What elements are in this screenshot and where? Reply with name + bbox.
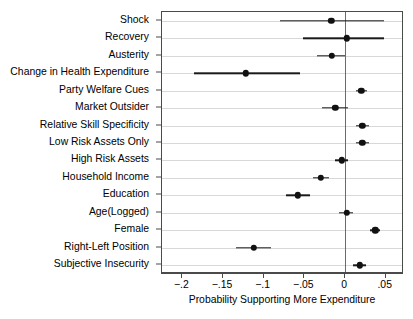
y-axis-tick-label: Relative Skill Specificity: [40, 119, 149, 129]
estimate-point: [359, 140, 365, 146]
estimate-point: [343, 35, 349, 41]
x-axis-tick: [263, 273, 264, 278]
estimate-point: [358, 87, 364, 93]
estimate-row: [162, 135, 402, 151]
y-axis-tick-label: Age(Logged): [89, 207, 149, 217]
y-axis-tick-label: Party Welfare Cues: [59, 84, 149, 94]
x-axis-tick: [181, 273, 182, 278]
x-axis-tick-label: −.15: [212, 279, 233, 291]
y-axis-tick-label: Household Income: [62, 172, 149, 182]
estimate-point: [243, 70, 249, 76]
estimate-row: [162, 152, 402, 168]
estimate-point: [359, 122, 365, 128]
y-axis-labels: ShockRecoveryAusterityChange in Health E…: [0, 11, 155, 273]
plot-area: [161, 11, 403, 273]
estimate-row: [162, 30, 402, 46]
y-axis-tick-label: Low Risk Assets Only: [49, 137, 149, 147]
x-axis-tick-label: −.1: [255, 279, 270, 291]
estimate-row: [162, 65, 402, 81]
estimate-point: [251, 245, 257, 251]
estimate-point: [295, 192, 301, 198]
estimate-row: [162, 118, 402, 134]
y-axis-tick-label: Shock: [120, 15, 149, 25]
y-axis-tick-label: Market Outsider: [75, 102, 149, 112]
estimate-point: [329, 52, 335, 58]
estimate-row: [162, 48, 402, 64]
estimate-row: [162, 205, 402, 221]
x-axis-tick-label: .05: [377, 279, 391, 291]
x-axis-tick: [385, 273, 386, 278]
estimate-point: [372, 227, 378, 233]
estimate-row: [162, 83, 402, 99]
estimate-point: [317, 175, 323, 181]
x-axis-tick: [344, 273, 345, 278]
estimate-row: [162, 13, 402, 29]
estimate-point: [339, 157, 345, 163]
estimate-row: [162, 187, 402, 203]
estimate-row: [162, 100, 402, 116]
estimate-point: [328, 18, 334, 24]
x-axis-tick-label: 0: [341, 279, 347, 291]
x-axis-tick: [303, 273, 304, 278]
estimate-row: [162, 257, 402, 273]
y-axis-tick-label: High Risk Assets: [71, 154, 149, 164]
x-axis-tick: [222, 273, 223, 278]
estimate-point: [356, 262, 362, 268]
x-axis-tick-label: −.2: [174, 279, 189, 291]
coefficient-plot: ShockRecoveryAusterityChange in Health E…: [0, 0, 413, 319]
estimate-point: [343, 210, 349, 216]
estimate-row: [162, 222, 402, 238]
estimate-point: [332, 105, 338, 111]
estimate-row: [162, 240, 402, 256]
y-axis-tick-label: Right-Left Position: [64, 242, 149, 252]
x-axis-title: Probability Supporting More Expenditure: [161, 294, 403, 305]
y-axis-tick-label: Female: [114, 224, 149, 234]
y-axis-tick-label: Change in Health Expenditure: [10, 67, 149, 77]
y-axis-tick-label: Subjective Insecurity: [54, 259, 149, 269]
y-axis-tick-label: Austerity: [109, 49, 149, 59]
y-axis-tick-label: Recovery: [105, 32, 149, 42]
estimate-row: [162, 170, 402, 186]
y-axis-tick-label: Education: [103, 189, 149, 199]
x-axis-tick-label: −.05: [293, 279, 314, 291]
x-axis-line: [161, 273, 403, 274]
